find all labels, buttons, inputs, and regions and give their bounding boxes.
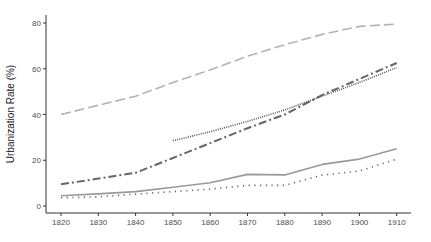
y-axis: 020406080	[32, 15, 46, 213]
x-tick-label: 1850	[164, 218, 182, 227]
x-tick-label: 1840	[127, 218, 145, 227]
y-axis-title: Urbanization Rate (%)	[5, 65, 16, 163]
x-tick-label: 1830	[89, 218, 107, 227]
x-tick-label: 1860	[201, 218, 219, 227]
y-tick-label: 20	[32, 156, 41, 165]
y-tick-label: 0	[37, 202, 42, 211]
y-tick-label: 80	[32, 19, 41, 28]
y-tick-label: 40	[32, 111, 41, 120]
x-tick-label: 1880	[276, 218, 294, 227]
x-tick-label: 1870	[239, 218, 257, 227]
x-tick-label: 1900	[351, 218, 369, 227]
x-tick-label: 1910	[388, 218, 406, 227]
series-layer	[61, 24, 397, 198]
x-axis: 1820183018401850186018701880189019001910	[46, 213, 411, 227]
series-solid-line	[61, 149, 397, 196]
series-longdash-line	[61, 24, 397, 114]
series-finedot-line	[173, 68, 397, 141]
urbanization-line-chart: 020406080 182018301840185018601870188018…	[0, 0, 431, 242]
x-tick-label: 1820	[52, 218, 70, 227]
y-tick-label: 60	[32, 65, 41, 74]
x-tick-label: 1890	[313, 218, 331, 227]
series-dashdot-line	[61, 63, 397, 184]
